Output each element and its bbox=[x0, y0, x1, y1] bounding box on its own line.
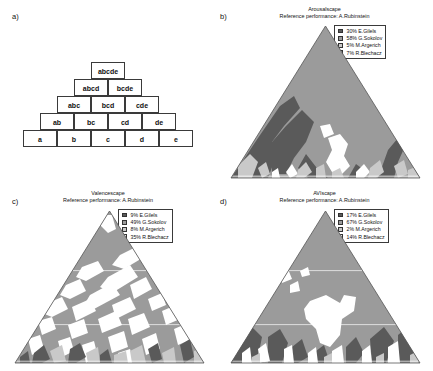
pyramid-cell: bcde bbox=[108, 79, 142, 96]
subset-pyramid-diagram: abcde abcd bcde abc bcd cde ab bc cd de … bbox=[22, 62, 194, 147]
panel-d-title: AVIscape bbox=[216, 190, 433, 197]
panel-d-simplex-svg bbox=[228, 207, 423, 367]
panel-b-arousalscape: b) Arousalscape Reference performance: A… bbox=[216, 0, 433, 185]
pyramid-cell: a bbox=[23, 130, 57, 147]
pyramid-cell: e bbox=[159, 130, 193, 147]
pyramid-cell: abcde bbox=[91, 62, 125, 79]
pyramid-cell: ab bbox=[40, 113, 74, 130]
pyramid-cell: bcd bbox=[91, 96, 125, 113]
panel-d-ternary-plot bbox=[228, 207, 423, 367]
pyramid-cell: de bbox=[142, 113, 176, 130]
panel-d-title-block: AVIscape Reference performance: A.Rubins… bbox=[216, 190, 433, 203]
panel-a-subset-pyramid: a) abcde abcd bcde abc bcd cde ab bc cd … bbox=[0, 0, 216, 185]
pyramid-row-5: a b c d e bbox=[22, 130, 194, 147]
panel-c-title-block: Valencescape Reference performance: A.Ru… bbox=[0, 190, 216, 203]
panel-c-simplex-svg bbox=[12, 207, 207, 367]
panel-a-letter: a) bbox=[12, 12, 19, 21]
panel-b-ternary-plot bbox=[228, 22, 423, 182]
pyramid-cell: abcd bbox=[74, 79, 108, 96]
panel-c-valencescape: c) Valencescape Reference performance: A… bbox=[0, 185, 216, 371]
panel-c-ternary-plot bbox=[12, 207, 207, 367]
pyramid-row-4: ab bc cd de bbox=[22, 113, 194, 130]
pyramid-cell: cde bbox=[125, 96, 159, 113]
pyramid-cell: d bbox=[125, 130, 159, 147]
pyramid-cell: abc bbox=[57, 96, 91, 113]
pyramid-cell: b bbox=[57, 130, 91, 147]
panel-b-title-block: Arousalscape Reference performance: A.Ru… bbox=[216, 6, 433, 19]
pyramid-cell: cd bbox=[108, 113, 142, 130]
panel-d-aviscape: d) AVIscape Reference performance: A.Rub… bbox=[216, 185, 433, 371]
pyramid-row-3: abc bcd cde bbox=[22, 96, 194, 113]
pyramid-row-2: abcd bcde bbox=[22, 79, 194, 96]
panel-b-title: Arousalscape bbox=[216, 6, 433, 13]
panel-b-subtitle: Reference performance: A.Rubinstein bbox=[216, 13, 433, 20]
panel-c-subtitle: Reference performance: A.Rubinstein bbox=[0, 197, 216, 204]
panel-b-simplex-svg bbox=[228, 22, 423, 182]
panel-c-title: Valencescape bbox=[0, 190, 216, 197]
pyramid-row-1: abcde bbox=[22, 62, 194, 79]
pyramid-cell: c bbox=[91, 130, 125, 147]
panel-d-subtitle: Reference performance: A.Rubinstein bbox=[216, 197, 433, 204]
pyramid-cell: bc bbox=[74, 113, 108, 130]
